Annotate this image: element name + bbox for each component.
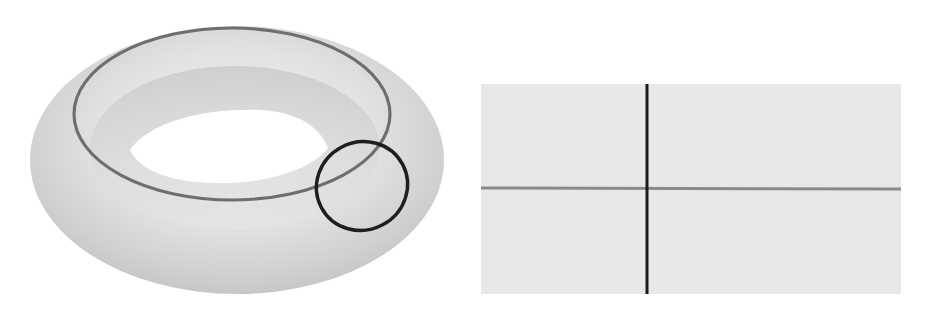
torus-panel: Torus with meridian and longitude curves — [0, 0, 464, 312]
torus-figure — [0, 0, 464, 312]
square-figure — [464, 0, 928, 312]
horizontal-longitude-line — [481, 188, 901, 189]
square-panel: Flat square representation of the torus — [464, 0, 928, 312]
